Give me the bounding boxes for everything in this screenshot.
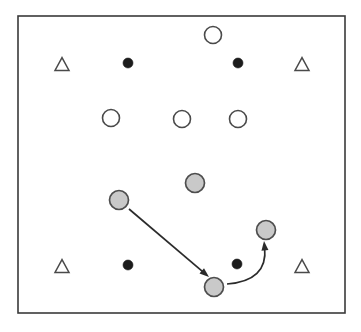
diagram-canvas — [0, 0, 361, 332]
node-dot-bottom-left — [123, 260, 133, 270]
node-dot-bottom-right — [232, 259, 242, 269]
node-open-circle-mid-left — [103, 110, 120, 127]
node-dot-top-left — [123, 58, 133, 68]
node-dot-top-right — [233, 58, 243, 68]
node-gray-circle-center — [186, 174, 205, 193]
node-gray-circle-right — [257, 221, 276, 240]
node-open-circle-mid-center — [174, 111, 191, 128]
node-open-circle-mid-right — [230, 111, 247, 128]
node-open-circle-top — [205, 27, 222, 44]
diagram-svg — [0, 0, 361, 332]
node-gray-circle-left — [110, 191, 129, 210]
node-gray-circle-bottom — [205, 278, 224, 297]
